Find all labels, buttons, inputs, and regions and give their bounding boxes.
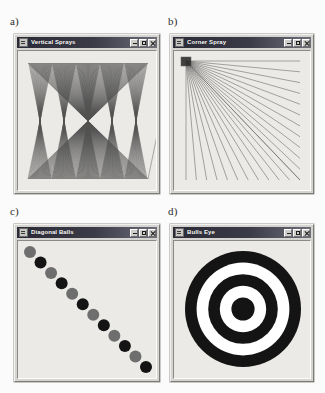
maximize-icon[interactable] (139, 229, 147, 237)
window-diagonal-balls[interactable]: Diagonal Balls (14, 224, 160, 382)
corner-spray-drawing (174, 51, 311, 190)
panel-b: b) Corner Spray (168, 16, 318, 196)
vertical-sprays-drawing (18, 51, 157, 190)
diagonal-balls-drawing (18, 241, 157, 378)
panel-a: a) Vertical Sprays (10, 16, 162, 196)
figure-page: a) Vertical Sprays b) (0, 0, 325, 393)
window-vertical-sprays[interactable]: Vertical Sprays (14, 34, 160, 194)
close-icon[interactable] (148, 229, 156, 237)
panel-d: d) Bulls Eye (168, 206, 318, 386)
window-title: Corner Spray (187, 37, 284, 48)
maximize-icon[interactable] (293, 39, 301, 47)
panel-c-label: c) (10, 206, 19, 217)
panel-c: c) Diagonal Balls (10, 206, 162, 386)
system-menu-icon[interactable] (19, 228, 28, 237)
bulls-eye-drawing (174, 241, 311, 378)
window-bulls-eye[interactable]: Bulls Eye (170, 224, 314, 382)
window-controls (130, 39, 156, 47)
window-corner-spray[interactable]: Corner Spray (170, 34, 314, 194)
window-controls (284, 229, 310, 237)
maximize-icon[interactable] (139, 39, 147, 47)
canvas-diagonal-balls (17, 240, 157, 379)
close-icon[interactable] (148, 39, 156, 47)
window-title: Diagonal Balls (31, 227, 130, 238)
maximize-icon[interactable] (293, 229, 301, 237)
system-menu-icon[interactable] (175, 38, 184, 47)
canvas-bulls-eye (173, 240, 311, 379)
window-title: Bulls Eye (187, 227, 284, 238)
titlebar[interactable]: Bulls Eye (173, 227, 311, 238)
panel-b-label: b) (168, 16, 178, 27)
close-icon[interactable] (302, 39, 310, 47)
window-title: Vertical Sprays (31, 37, 130, 48)
system-menu-icon[interactable] (19, 38, 28, 47)
titlebar[interactable]: Diagonal Balls (17, 227, 157, 238)
minimize-icon[interactable] (284, 39, 292, 47)
close-icon[interactable] (302, 229, 310, 237)
canvas-vertical-sprays (17, 50, 157, 191)
titlebar[interactable]: Vertical Sprays (17, 37, 157, 48)
minimize-icon[interactable] (284, 229, 292, 237)
window-controls (284, 39, 310, 47)
titlebar[interactable]: Corner Spray (173, 37, 311, 48)
panel-d-label: d) (168, 206, 178, 217)
panel-a-label: a) (10, 16, 19, 27)
minimize-icon[interactable] (130, 229, 138, 237)
system-menu-icon[interactable] (175, 228, 184, 237)
canvas-corner-spray (173, 50, 311, 191)
window-controls (130, 229, 156, 237)
minimize-icon[interactable] (130, 39, 138, 47)
